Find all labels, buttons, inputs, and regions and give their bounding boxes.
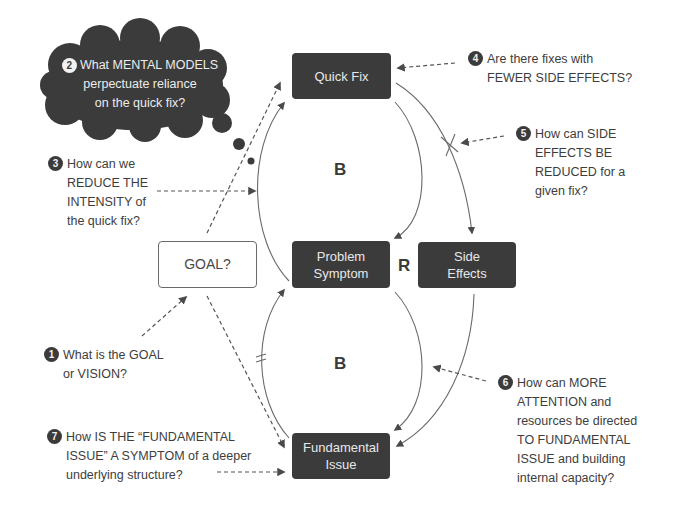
number-badge-6: 6 (498, 375, 513, 390)
question-3-line-2: REDUCE THE (67, 174, 148, 193)
node-goal: GOAL? (158, 241, 257, 288)
dashed-q1-to-goal (142, 297, 186, 336)
arrow-symptom-to-fundamental (395, 292, 422, 430)
node-goal-label: GOAL? (184, 256, 231, 273)
arrow-sideeffects-to-fundamental (397, 294, 474, 446)
question-7-line-3: underlying structure? (66, 466, 251, 485)
question-3-line-3: INTENSITY of (67, 193, 148, 212)
question-3-line-4: the quick fix? (67, 212, 148, 231)
node-quick-fix: Quick Fix (292, 53, 391, 99)
question-1-line-1: What is the GOAL (63, 346, 164, 365)
question-3-line-1: How can we (67, 155, 148, 174)
question-6-line-3: resources be directed (517, 412, 637, 431)
node-fundamental-issue-label: Fundamental Issue (303, 439, 379, 473)
question-6-line-5: ISSUE and building (517, 450, 637, 469)
question-4-line-2: FEWER SIDE EFFECTS? (487, 69, 632, 88)
arrow-quickfix-to-symptom (395, 102, 422, 238)
number-badge-4: 4 (468, 51, 483, 66)
question-1-line-2: or VISION? (63, 365, 164, 384)
question-4-line-1: Are there fixes with (487, 50, 632, 69)
question-6: 6 How can MORE ATTENTION and resources b… (517, 374, 637, 488)
question-5-line-4: given fix? (535, 182, 625, 201)
dashed-goal-to-fundamental (207, 296, 284, 447)
question-3: 3 How can we REDUCE THE INTENSITY of the… (67, 155, 148, 231)
arrow-symptom-to-quickfix (258, 103, 289, 281)
question-6-line-6: internal capacity? (517, 469, 637, 488)
number-badge-5: 5 (516, 126, 531, 141)
node-side-effects-label: Side Effects (447, 248, 487, 282)
arrow-fundamental-to-symptom (262, 290, 289, 438)
question-6-line-1: How can MORE (517, 374, 637, 393)
number-badge-2: 2 (62, 58, 77, 73)
question-1: 1 What is the GOAL or VISION? (63, 346, 164, 384)
question-2-line-3: on the quick fix? (60, 94, 220, 113)
loop-label-reinforcing: R (398, 256, 410, 276)
question-5-line-2: EFFECTS BE (535, 144, 625, 163)
delay-mark-icon (256, 354, 266, 362)
question-6-line-4: TO FUNDAMENTAL (517, 431, 637, 450)
question-2-line-2: perpectuate reliance (60, 75, 220, 94)
systems-archetype-diagram: Quick Fix GOAL? Problem Symptom Side Eff… (0, 0, 674, 524)
question-6-line-2: ATTENTION and (517, 393, 637, 412)
loop-label-balancing-top: B (334, 160, 346, 180)
number-badge-7: 7 (47, 429, 62, 444)
dashed-q4-to-quickfix (398, 63, 455, 68)
question-2-line-1: What MENTAL MODELS (80, 58, 218, 72)
loop-label-balancing-bottom: B (334, 354, 346, 374)
node-side-effects: Side Effects (418, 242, 516, 288)
question-5-line-3: REDUCED for a (535, 163, 625, 182)
question-4: 4 Are there fixes with FEWER SIDE EFFECT… (487, 50, 632, 88)
question-7-line-1: How IS THE “FUNDAMENTAL (66, 428, 251, 447)
x-mark-icon (441, 134, 458, 156)
question-5: 5 How can SIDE EFFECTS BE REDUCED for a … (535, 125, 625, 201)
node-problem-symptom: Problem Symptom (292, 241, 390, 288)
number-badge-1: 1 (44, 347, 59, 362)
question-7: 7 How IS THE “FUNDAMENTAL ISSUE” A SYMPT… (66, 428, 251, 485)
dashed-q5-to-xmark (462, 136, 504, 143)
question-7-line-2: ISSUE” A SYMPTOM of a deeper (66, 447, 251, 466)
question-5-line-1: How can SIDE (535, 125, 625, 144)
number-badge-3: 3 (48, 156, 63, 171)
node-fundamental-issue: Fundamental Issue (292, 433, 390, 479)
question-2: 2What MENTAL MODELS perpectuate reliance… (60, 56, 220, 113)
arrow-quickfix-to-sideeffects (396, 83, 472, 233)
node-quick-fix-label: Quick Fix (314, 68, 368, 85)
node-problem-symptom-label: Problem Symptom (314, 248, 369, 282)
